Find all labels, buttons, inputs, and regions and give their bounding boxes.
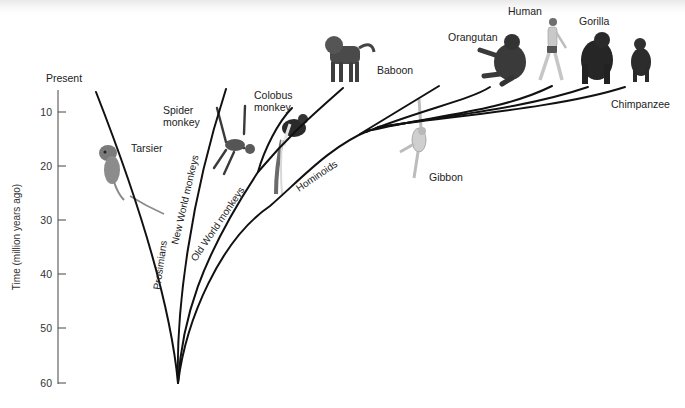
label-gorilla: Gorilla — [579, 15, 610, 27]
label-spider-monkey-1: Spider — [163, 104, 194, 116]
label-colobus-1: Colobus — [254, 89, 293, 101]
clade-label-prosimians: Prosimians — [151, 240, 169, 291]
tick-label-10: 10 — [40, 106, 52, 118]
tick-label-20: 20 — [40, 160, 52, 172]
label-colobus-2: monkey — [254, 101, 292, 113]
gibbon-illustration — [400, 99, 426, 178]
branch-prosimians — [96, 92, 178, 383]
chimpanzee-illustration — [631, 38, 651, 82]
branch-gorilla — [376, 87, 588, 128]
baboon-illustration — [325, 36, 374, 82]
tick-label-40: 40 — [40, 268, 52, 280]
gorilla-illustration — [581, 32, 613, 84]
label-tarsier: Tarsier — [131, 142, 163, 154]
axis-title: Time (million years ago) — [11, 184, 22, 290]
branch-hominoids — [178, 130, 370, 383]
diagram-canvas: 10 20 30 40 50 60 Present Time (million … — [0, 0, 685, 408]
label-chimpanzee: Chimpanzee — [611, 98, 670, 110]
label-gibbon: Gibbon — [429, 171, 463, 183]
branch-chimpanzee — [378, 87, 625, 127]
present-label: Present — [46, 72, 82, 84]
time-axis: 10 20 30 40 50 60 Present Time (million … — [11, 72, 82, 389]
tarsier-illustration — [99, 145, 164, 214]
label-baboon: Baboon — [377, 64, 413, 76]
human-illustration — [540, 18, 566, 80]
primate-phylogeny-diagram: 10 20 30 40 50 60 Present Time (million … — [0, 0, 685, 408]
label-orangutan: Orangutan — [448, 31, 498, 43]
label-human: Human — [508, 5, 542, 17]
tick-label-50: 50 — [40, 322, 52, 334]
tick-label-30: 30 — [40, 214, 52, 226]
spider-monkey-illustration — [214, 106, 255, 174]
tick-label-60: 60 — [40, 377, 52, 389]
label-spider-monkey-2: monkey — [163, 116, 201, 128]
